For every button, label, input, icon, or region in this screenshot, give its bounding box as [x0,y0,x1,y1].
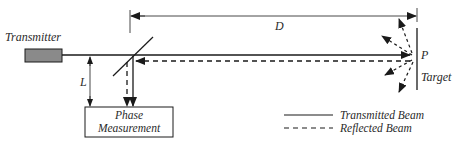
target-label: Target [421,70,452,84]
phase-label-line2: Measurement [97,122,161,134]
phase-label-line1: Phase [114,109,143,121]
distance-measurement-diagram: Transmitter L Phase Measurement D P Targ… [0,0,471,146]
length-dimension: L [79,57,90,106]
legend: Transmitted Beam Reflected Beam [284,109,424,135]
transmitter: Transmitter [5,30,62,62]
transmitter-label: Transmitter [5,30,61,44]
distance-label: D [274,19,284,33]
point-label: P [420,48,429,62]
distance-dimension: D [130,8,417,33]
legend-transmitted-label: Transmitted Beam [340,109,424,121]
legend-reflected-label: Reflected Beam [339,122,412,135]
phase-measurement-box: Phase Measurement [85,107,173,137]
target: P Target [417,28,452,90]
length-label: L [79,75,87,89]
